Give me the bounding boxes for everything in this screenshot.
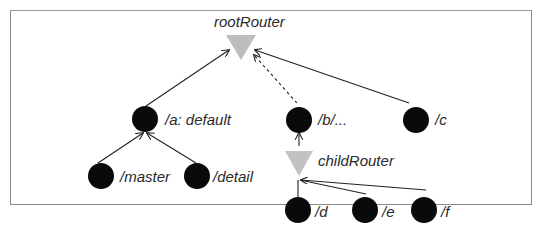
route-label-d: /d — [315, 204, 328, 219]
route-node-master — [88, 163, 114, 189]
route-label-master: /master — [120, 169, 170, 184]
route-node-a — [132, 106, 158, 132]
route-node-b — [286, 107, 312, 133]
route-node-e — [352, 197, 378, 223]
route-node-d — [285, 197, 311, 223]
route-label-f: /f — [441, 204, 449, 219]
edge-detail-a — [147, 133, 196, 163]
edge-a-root — [146, 50, 229, 106]
child-router-triangle-icon — [285, 151, 313, 176]
child-router-label: childRouter — [318, 153, 394, 168]
edge-master-a — [98, 133, 143, 163]
route-node-c — [403, 107, 429, 133]
route-node-detail — [184, 163, 210, 189]
root-router-triangle-icon — [226, 35, 256, 60]
route-label-c: /c — [435, 112, 447, 127]
route-label-a: /a: default — [165, 112, 231, 127]
route-label-e: /e — [382, 204, 395, 219]
router-tree-edges — [0, 0, 544, 238]
route-label-detail: /detail — [213, 169, 253, 184]
route-node-f — [411, 197, 437, 223]
route-label-b: /b/... — [318, 112, 347, 127]
edge-f-child — [301, 180, 426, 190]
edge-c-root — [255, 50, 409, 103]
root-router-label: rootRouter — [214, 14, 285, 29]
